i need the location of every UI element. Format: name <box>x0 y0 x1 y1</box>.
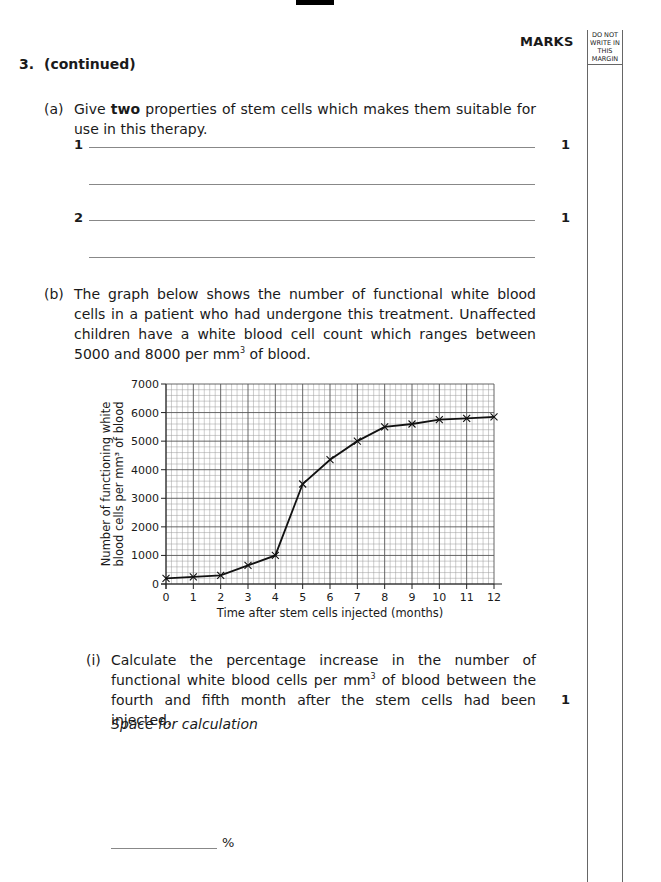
x-tick-label: 8 <box>381 591 388 604</box>
y-axis-label-line-1: Number of functioning white <box>99 402 113 566</box>
part-b-text-end: of blood. <box>245 346 311 362</box>
y-tick-label: 0 <box>152 578 159 591</box>
y-axis-label-line-2: blood cells per mm³ of blood <box>112 402 126 567</box>
part-a-label: (a) <box>44 101 64 117</box>
marks-a2: 1 <box>561 210 570 225</box>
part-a-text: Give two properties of stem cells which … <box>74 99 536 139</box>
x-tick-label: 12 <box>487 591 501 604</box>
margin-header-line: MARGIN <box>588 55 622 63</box>
y-tick-label: 5000 <box>131 435 159 448</box>
x-tick-label: 0 <box>163 591 170 604</box>
calculation-space-label: Space for calculation <box>111 714 258 734</box>
x-tick-label: 7 <box>354 591 361 604</box>
x-tick-label: 10 <box>432 591 446 604</box>
x-tick-label: 2 <box>217 591 224 604</box>
x-tick-label: 6 <box>327 591 334 604</box>
part-a-text-before: Give <box>74 101 111 117</box>
x-ticks: 0123456789101112 <box>163 584 502 604</box>
answer-number-2: 2 <box>74 210 83 225</box>
page-top-marker <box>296 0 334 5</box>
axes <box>161 384 502 589</box>
x-tick-label: 5 <box>299 591 306 604</box>
chart-svg: 01000200030004000500060007000 0123456789… <box>95 372 515 622</box>
y-tick-label: 3000 <box>131 492 159 505</box>
x-axis-label: Time after stem cells injected (months) <box>216 606 443 620</box>
marks-a1: 1 <box>561 137 570 152</box>
white-blood-cell-chart: 01000200030004000500060007000 0123456789… <box>95 372 515 622</box>
y-tick-label: 6000 <box>131 407 159 420</box>
y-ticks: 01000200030004000500060007000 <box>131 378 166 591</box>
margin-header: DO NOT WRITE IN THIS MARGIN <box>588 30 622 65</box>
percent-unit: % <box>222 835 234 850</box>
y-tick-label: 7000 <box>131 378 159 391</box>
x-tick-label: 1 <box>190 591 197 604</box>
x-tick-label: 3 <box>245 591 252 604</box>
margin-header-line: THIS <box>588 47 622 55</box>
answer-line-1a[interactable] <box>89 147 535 148</box>
part-a-text-bold: two <box>111 101 140 117</box>
x-tick-label: 11 <box>460 591 474 604</box>
question-number: 3. <box>19 56 34 72</box>
percentage-answer-line[interactable] <box>111 848 217 849</box>
y-tick-label: 4000 <box>131 464 159 477</box>
margin-header-line: DO NOT <box>588 31 622 39</box>
y-axis-label: Number of functioning white blood cells … <box>99 402 126 567</box>
marks-column-header: MARKS <box>520 34 573 49</box>
part-b-label: (b) <box>44 286 64 302</box>
answer-number-1: 1 <box>74 137 83 152</box>
x-tick-label: 9 <box>409 591 416 604</box>
margin-header-line: WRITE IN <box>588 39 622 47</box>
answer-line-2a[interactable] <box>89 220 535 221</box>
marks-b-i: 1 <box>561 692 570 707</box>
answer-line-1b[interactable] <box>89 184 535 185</box>
part-b-i-label: (i) <box>86 652 101 668</box>
do-not-write-margin: DO NOT WRITE IN THIS MARGIN <box>587 30 623 882</box>
part-a-text-after: properties of stem cells which makes the… <box>74 101 536 137</box>
question-title: (continued) <box>44 56 136 72</box>
part-b-text: The graph below shows the number of func… <box>74 284 536 364</box>
answer-line-2b[interactable] <box>89 257 535 258</box>
y-tick-label: 2000 <box>131 521 159 534</box>
y-tick-label: 1000 <box>131 549 159 562</box>
x-tick-label: 4 <box>272 591 279 604</box>
